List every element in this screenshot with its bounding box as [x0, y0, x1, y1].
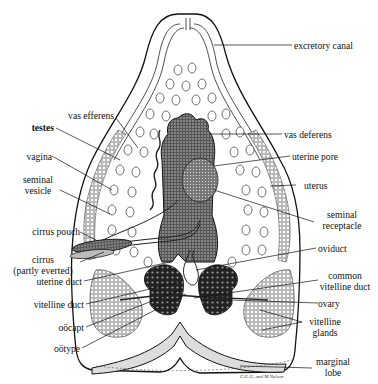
label-common-vitelline-duct-line1: common [312, 270, 378, 281]
label-oviduct: oviduct [318, 243, 347, 254]
diagram-figure: vas efferens testes vagina seminal vesic… [0, 0, 378, 384]
label-marginal-lobe: marginal lobe [310, 356, 356, 378]
label-testes: testes [2, 122, 54, 133]
artist-signature: C.G.G. and M.Nelson [240, 374, 284, 379]
label-vitelline-glands-line1: vitelline [302, 316, 348, 327]
label-seminal-receptacle-line2: receptacle [310, 220, 374, 231]
label-cirrus: cirrus (partly everted) [4, 254, 82, 276]
ovary-lobes [144, 265, 237, 315]
vitelline-gland-masses [90, 270, 294, 337]
label-ovary: ovary [318, 298, 340, 309]
label-uterine-pore: uterine pore [292, 151, 338, 162]
label-cirrus-line1: cirrus [4, 254, 82, 265]
label-ootype: oötype [30, 343, 80, 354]
label-vas-efferens: vas efferens [14, 110, 114, 121]
label-vitelline-glands-line2: glands [302, 327, 348, 338]
label-uterine-duct: uterine duct [4, 276, 82, 287]
common-vitelline-duct-line [120, 295, 268, 300]
label-marginal-lobe-line2: lobe [310, 367, 356, 378]
label-oocapt: oöcapt [30, 322, 84, 333]
label-vas-deferens: vas deferens [284, 129, 332, 140]
label-marginal-lobe-line1: marginal [310, 356, 356, 367]
label-seminal-vesicle-line2: vesicle [16, 185, 60, 196]
label-cirrus-pouch: cirrus pouch [4, 226, 80, 237]
label-excretory-canal: excretory canal [294, 40, 353, 51]
label-seminal-vesicle-line1: seminal [16, 174, 60, 185]
label-common-vitelline-duct: common vitelline duct [312, 270, 378, 292]
label-seminal-receptacle: seminal receptacle [310, 209, 374, 231]
label-seminal-receptacle-line1: seminal [310, 209, 374, 220]
label-vitelline-duct: vitelline duct [4, 299, 84, 310]
label-uterus: uterus [304, 180, 327, 191]
label-seminal-vesicle: seminal vesicle [16, 174, 60, 196]
receptacle-shape [182, 158, 218, 202]
label-cirrus-line2: (partly everted) [4, 265, 82, 276]
vas-deferens-duct [150, 130, 160, 210]
label-common-vitelline-duct-line2: vitelline duct [312, 281, 378, 292]
label-vagina: vagina [2, 151, 52, 162]
label-vitelline-glands: vitelline glands [302, 316, 348, 338]
